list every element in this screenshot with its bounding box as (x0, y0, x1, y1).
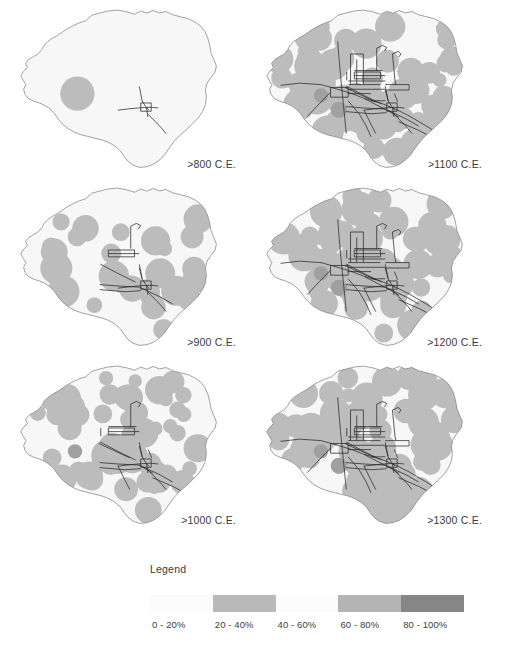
panel-label-900: >900 C.E. (187, 336, 236, 348)
map-panel-1100: >1100 C.E. (252, 0, 490, 180)
map-canvas-1300 (252, 356, 490, 536)
legend-swatch-3 (276, 595, 339, 612)
legend-label-1: 0 - 20% (150, 619, 213, 630)
map-canvas-1100 (252, 0, 490, 180)
map-panel-800: >800 C.E. (6, 0, 244, 180)
legend-swatch-4 (338, 595, 401, 612)
legend-swatch-5 (401, 595, 464, 612)
legend-labels: 0 - 20%20 - 40%40 - 60%60 - 80%80 - 100% (150, 619, 464, 630)
legend-swatch-2 (213, 595, 276, 612)
figure-root: >800 C.E.>1100 C.E.>900 C.E.>1200 C.E.>1… (0, 0, 505, 668)
map-canvas-1200 (252, 178, 490, 358)
panel-label-1300: >1300 C.E. (427, 514, 482, 526)
map-panel-900: >900 C.E. (6, 178, 244, 358)
legend: Legend 0 - 20%20 - 40%40 - 60%60 - 80%80… (149, 563, 467, 630)
map-panel-1200: >1200 C.E. (252, 178, 490, 358)
study-area-fill (21, 10, 217, 167)
map-canvas-1000 (6, 356, 244, 536)
panel-label-1200: >1200 C.E. (427, 336, 482, 348)
legend-label-2: 20 - 40% (213, 619, 276, 630)
panel-label-1100: >1100 C.E. (428, 158, 482, 170)
legend-label-4: 60 - 80% (338, 619, 401, 630)
map-canvas-900 (6, 178, 244, 358)
density-blobs (60, 76, 94, 110)
map-panel-1000: >1000 C.E. (6, 356, 244, 536)
map-canvas-800 (6, 0, 244, 180)
map-panel-grid: >800 C.E.>1100 C.E.>900 C.E.>1200 C.E.>1… (0, 0, 505, 548)
panel-label-800: >800 C.E. (187, 158, 236, 170)
map-panel-1300: >1300 C.E. (252, 356, 490, 536)
legend-color-bar (150, 595, 464, 612)
legend-label-5: 80 - 100% (401, 619, 464, 630)
legend-title: Legend (150, 563, 467, 575)
legend-swatch-1 (150, 595, 213, 612)
legend-label-3: 40 - 60% (276, 619, 339, 630)
panel-label-1000: >1000 C.E. (181, 514, 236, 526)
